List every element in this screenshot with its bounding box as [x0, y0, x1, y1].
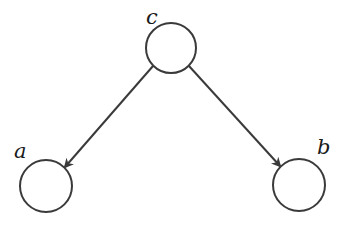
edge-c-to-a — [65, 66, 153, 167]
node-b — [273, 159, 325, 211]
node-c-label: c — [146, 5, 158, 29]
node-a-label: a — [14, 139, 27, 163]
edge-c-to-b — [189, 66, 280, 166]
node-a — [20, 160, 72, 212]
node-c — [146, 23, 196, 73]
graph-diagram: c a b — [0, 0, 340, 228]
node-b-label: b — [317, 135, 330, 159]
